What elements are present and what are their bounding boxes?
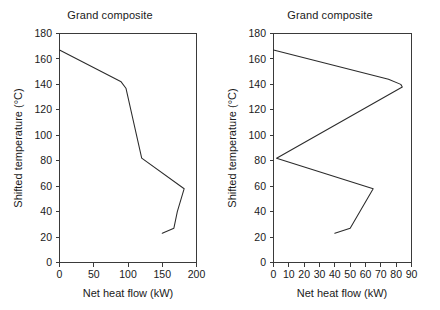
- x-tick-label: 80: [390, 268, 402, 280]
- x-axis-title-left: Net heat flow (kW): [83, 287, 173, 299]
- x-tick-label: 90: [406, 268, 418, 280]
- x-axis-tick-labels-right: 0 10 20 30 40 50 60 70 80 90: [271, 268, 418, 280]
- x-axis-ticks-left: [60, 263, 197, 267]
- x-axis-title-right: Net heat flow (kW): [297, 287, 387, 299]
- y-tick-label: 160: [248, 53, 266, 65]
- y-tick-label: 100: [34, 129, 52, 141]
- y-tick-label: 180: [248, 27, 266, 39]
- y-axis-tick-labels-right: 0 20 40 60 80 100 120 140 160 180: [248, 27, 266, 268]
- y-tick-label: 20: [40, 231, 52, 243]
- y-tick-label: 40: [254, 205, 266, 217]
- x-tick-label: 70: [375, 268, 387, 280]
- y-axis-ticks-left: [56, 34, 60, 263]
- grand-composite-figure: Grand composite 0 20 4: [0, 0, 440, 310]
- x-tick-label: 0: [271, 268, 277, 280]
- x-tick-label: 30: [314, 268, 326, 280]
- y-axis-ticks-right: [270, 34, 274, 263]
- x-tick-label: 0: [57, 268, 63, 280]
- x-tick-label: 20: [298, 268, 310, 280]
- x-tick-label: 50: [88, 268, 100, 280]
- y-tick-label: 0: [260, 256, 266, 268]
- x-axis-ticks-right: [274, 263, 412, 267]
- x-tick-label: 50: [344, 268, 356, 280]
- y-axis-title-right: Shifted temperature (°C): [226, 88, 238, 207]
- axis-frame-left: [60, 34, 197, 263]
- y-tick-label: 120: [248, 103, 266, 115]
- y-tick-label: 0: [46, 256, 52, 268]
- y-tick-label: 160: [34, 53, 52, 65]
- x-tick-label: 40: [329, 268, 341, 280]
- chart-panel-left: Grand composite 0 20 4: [0, 0, 220, 310]
- plot-area-right: 0 20 40 60 80 100 120 140 160 180: [220, 0, 440, 310]
- grand-composite-curve-left: [60, 50, 185, 233]
- y-tick-label: 80: [254, 154, 266, 166]
- chart-panel-right: Grand composite 0 20 40: [220, 0, 440, 310]
- y-tick-label: 100: [248, 129, 266, 141]
- x-tick-label: 200: [188, 268, 206, 280]
- y-tick-label: 140: [248, 78, 266, 90]
- y-tick-label: 140: [34, 78, 52, 90]
- x-tick-label: 10: [283, 268, 295, 280]
- x-tick-label: 60: [360, 268, 372, 280]
- x-tick-label: 100: [119, 268, 137, 280]
- y-axis-title-left: Shifted temperature (°C): [12, 88, 24, 207]
- y-tick-label: 120: [34, 103, 52, 115]
- y-tick-label: 20: [254, 231, 266, 243]
- grand-composite-curve-right: [274, 50, 403, 233]
- y-axis-tick-labels-left: 0 20 40 60 80 100 120 140 160 180: [34, 27, 52, 268]
- x-axis-tick-labels-left: 0 50 100 150 200: [57, 268, 206, 280]
- y-tick-label: 60: [254, 180, 266, 192]
- plot-area-left: 0 20 40 60 80 100 120 140 160 180 0: [0, 0, 220, 310]
- y-tick-label: 60: [40, 180, 52, 192]
- x-tick-label: 150: [154, 268, 172, 280]
- y-tick-label: 40: [40, 205, 52, 217]
- y-tick-label: 180: [34, 27, 52, 39]
- y-tick-label: 80: [40, 154, 52, 166]
